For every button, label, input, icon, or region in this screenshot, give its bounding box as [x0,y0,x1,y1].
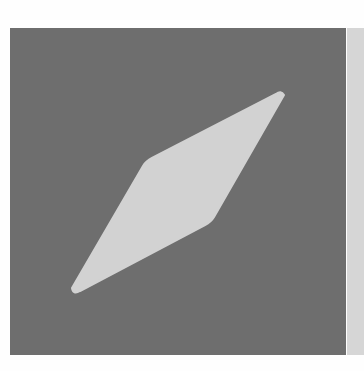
compass-needle-icon [0,0,364,371]
image-canvas [0,0,364,371]
